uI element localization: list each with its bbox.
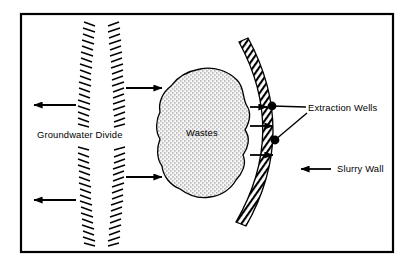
slurry-wall-label: Slurry Wall xyxy=(337,163,384,174)
waste-mass-label: Wastes xyxy=(186,127,218,138)
groundwater-divide-label: Groundwater Divide xyxy=(37,129,123,140)
flow-arrows-left-outflow xyxy=(34,105,76,200)
leader-extraction-wells-lower xyxy=(275,113,307,140)
extraction-wells-leaders xyxy=(272,106,307,140)
leader-extraction-wells-upper xyxy=(272,106,306,107)
extraction-wells-label: Extraction Wells xyxy=(308,102,378,113)
diagram-canvas: Wastes Extraction Wells Slurry Wall xyxy=(0,0,414,272)
groundwater-containment-figure: Wastes Extraction Wells Slurry Wall xyxy=(0,0,414,272)
flow-arrows-right-inflow xyxy=(126,88,162,177)
